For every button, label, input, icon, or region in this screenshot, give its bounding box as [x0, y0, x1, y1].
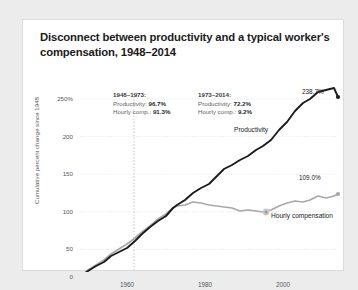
annotation-1-productivity-label: Productivity:: [113, 100, 147, 107]
annotation-2-heading: 1973–2014:: [198, 91, 252, 100]
y-axis-title: Cumulative percent change since 1948: [33, 96, 40, 206]
annotation-1-compensation-label: Hourly comp.:: [113, 108, 151, 115]
chart-card: Disconnect between productivity and a ty…: [22, 19, 344, 271]
series-label-productivity: Productivity: [234, 126, 268, 133]
annotation-1-compensation-value: 91.3%: [153, 108, 171, 115]
annotation-2-compensation-value: 9.2%: [238, 108, 252, 115]
annotation-1-row-compensation: Hourly comp.: 91.3%: [113, 108, 170, 117]
annotation-2-row-compensation: Hourly comp.: 9.2%: [198, 108, 252, 117]
y-tick-150: 150: [47, 170, 73, 177]
x-tick-1980: 1980: [188, 281, 222, 288]
page-title: Disconnect between productivity and a ty…: [40, 30, 332, 59]
y-tick-200: 200: [47, 133, 73, 140]
y-tick-250: 250%: [47, 95, 73, 102]
series-label-hourly-compensation: Hourly compensation: [271, 212, 333, 219]
y-tick-100: 100: [47, 208, 73, 215]
value-label-compensation-end: 109.0%: [299, 174, 321, 181]
y-tick-0: 0: [47, 273, 73, 280]
series-hourly-compensation: [80, 194, 338, 272]
y-tick-50: 50: [47, 245, 73, 252]
annotation-2-productivity-label: Productivity:: [198, 100, 232, 107]
annotation-1948-1973: 1948–1973: Productivity: 96.7% Hourly co…: [113, 91, 170, 117]
compensation-end-marker: [336, 192, 340, 196]
chart-plot-area: 250% 200 150 100 50 0 Cumulative percent…: [23, 69, 345, 272]
compensation-callout-dot-core: [265, 211, 268, 214]
productivity-end-marker: [336, 95, 340, 99]
annotation-2-row-productivity: Productivity: 72.2%: [198, 100, 252, 109]
annotation-1-row-productivity: Productivity: 96.7%: [113, 100, 170, 109]
value-label-productivity-end: 238.7%: [302, 88, 324, 95]
annotation-1973-2014: 1973–2014: Productivity: 72.2% Hourly co…: [198, 91, 252, 117]
annotation-2-compensation-label: Hourly comp.:: [198, 108, 236, 115]
annotation-1-heading: 1948–1973:: [113, 91, 170, 100]
x-tick-2000: 2000: [266, 281, 300, 288]
x-tick-1960: 1960: [110, 281, 144, 288]
annotation-1-productivity-value: 96.7%: [148, 100, 166, 107]
annotation-2-productivity-value: 72.2%: [233, 100, 251, 107]
